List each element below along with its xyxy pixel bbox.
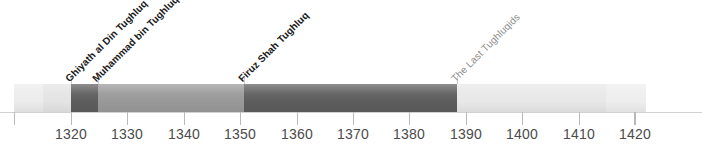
axis-tick-1410 bbox=[579, 112, 580, 125]
axis-tick-label-1380: 1380 bbox=[393, 126, 425, 142]
axis-tick-1420 bbox=[635, 112, 636, 125]
timeline-axis-line bbox=[0, 112, 702, 113]
timeline-segment-ghiyath-al-din-tughluq: Ghiyath al Din Tughluq bbox=[71, 84, 98, 112]
axis-tick-unlabeled-0 bbox=[14, 112, 15, 125]
timeline-segment-the-last-tughluqids-b bbox=[606, 84, 645, 112]
axis-tick-label-1340: 1340 bbox=[168, 126, 200, 142]
axis-tick-1330 bbox=[127, 112, 128, 125]
axis-tick-label-1360: 1360 bbox=[281, 126, 313, 142]
axis-tick-1380 bbox=[409, 112, 410, 125]
axis-tick-label-1420: 1420 bbox=[619, 126, 651, 142]
axis-tick-label-1390: 1390 bbox=[450, 126, 482, 142]
timeline-segment-pre-tughluq-lead-in-a bbox=[14, 84, 43, 112]
timeline-segment-firuz-shah-tughluq: Firuz Shah Tughluq bbox=[244, 84, 457, 112]
axis-tick-1320 bbox=[71, 112, 72, 125]
axis-tick-1370 bbox=[353, 112, 354, 125]
timeline-segment-muhammad-bin-tughluq: Muhammad bin Tughluq bbox=[98, 84, 244, 112]
axis-tick-1350 bbox=[240, 112, 241, 125]
axis-tick-label-1330: 1330 bbox=[111, 126, 143, 142]
axis-tick-label-1320: 1320 bbox=[55, 126, 87, 142]
timeline-bar-track: Ghiyath al Din TughluqMuhammad bin Tughl… bbox=[0, 84, 702, 112]
axis-tick-label-1350: 1350 bbox=[224, 126, 256, 142]
timeline-segment-the-last-tughluqids-a: The Last Tughluqids bbox=[457, 84, 606, 112]
era-label-the-last-tughluqids: The Last Tughluqids bbox=[450, 12, 522, 84]
timeline-segment-pre-tughluq-lead-in-b bbox=[43, 84, 71, 112]
axis-tick-label-1400: 1400 bbox=[506, 126, 538, 142]
axis-tick-1360 bbox=[297, 112, 298, 125]
axis-tick-label-1370: 1370 bbox=[337, 126, 369, 142]
era-label-firuz-shah-tughluq: Firuz Shah Tughluq bbox=[237, 10, 311, 84]
axis-tick-label-1410: 1410 bbox=[563, 126, 595, 142]
axis-tick-1400 bbox=[522, 112, 523, 125]
axis-tick-1340 bbox=[184, 112, 185, 125]
axis-tick-1390 bbox=[466, 112, 467, 125]
timeline-figure: Ghiyath al Din TughluqMuhammad bin Tughl… bbox=[0, 0, 702, 165]
